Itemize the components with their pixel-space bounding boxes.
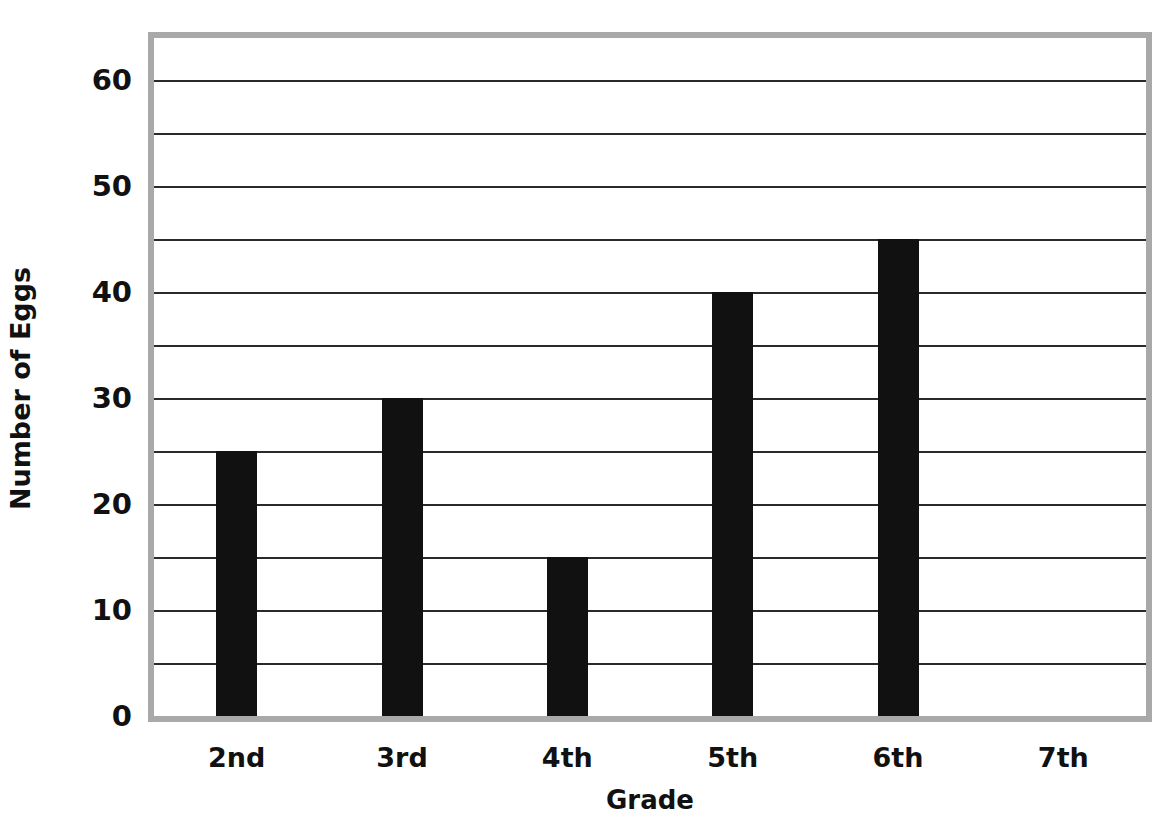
y-axis-tick-labels: 6050403020100 [40,0,132,826]
bar [712,292,753,716]
gridline [154,345,1146,347]
x-axis-tick-label: 3rd [332,742,472,773]
y-axis-tick-label: 40 [40,278,132,307]
y-axis-title: Number of Eggs [5,249,36,529]
bar [878,239,919,716]
y-axis-tick-label: 10 [40,596,132,625]
gridline [154,186,1146,188]
gridline [154,133,1146,135]
gridline [154,663,1146,665]
x-axis-tick-label: 5th [663,742,803,773]
y-axis-tick-label: 20 [40,490,132,519]
x-axis-tick-label: 6th [828,742,968,773]
gridline [154,239,1146,241]
x-axis-tick-labels: 2nd3rd4th5th6th7th [148,742,1152,782]
chart-page: Number of Eggs 6050403020100 2nd3rd4th5t… [0,0,1166,826]
y-axis-tick-label: 30 [40,384,132,413]
bar [547,557,588,716]
x-axis-title: Grade [148,785,1152,815]
y-axis-tick-label: 50 [40,172,132,201]
gridline [154,80,1146,82]
gridline [154,610,1146,612]
y-axis-tick-label: 60 [40,66,132,95]
gridline [154,451,1146,453]
x-axis-tick-label: 4th [497,742,637,773]
x-axis-tick-label: 2nd [167,742,307,773]
x-axis-tick-label: 7th [993,742,1133,773]
bar [216,451,257,716]
gridline [154,292,1146,294]
plot-area [148,32,1152,722]
gridline [154,398,1146,400]
y-axis-tick-label: 0 [40,702,132,731]
plot-inner [154,38,1146,716]
gridline [154,557,1146,559]
gridline [154,504,1146,506]
bar [382,398,423,716]
